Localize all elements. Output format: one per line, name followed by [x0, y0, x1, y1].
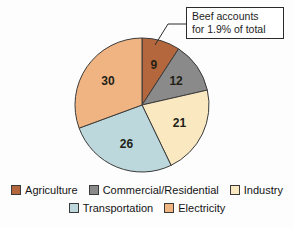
chart-plot-area: 912212630 Beef accounts for 1.9% of tota…: [0, 0, 294, 180]
pie-slice-value-label: 12: [169, 74, 183, 88]
legend-item[interactable]: Electricity: [164, 202, 225, 214]
legend-swatch-icon: [11, 185, 21, 195]
callout-line-1: Beef accounts: [192, 10, 279, 23]
legend-item[interactable]: Industry: [230, 184, 283, 196]
pie-slice-value-label: 21: [173, 116, 187, 130]
legend-row-2: TransportationElectricity: [0, 199, 294, 217]
legend-row-1: AgricultureCommercial/ResidentialIndustr…: [0, 181, 294, 199]
legend-item-label: Electricity: [178, 202, 225, 214]
pie-slice-value-label: 30: [101, 74, 115, 88]
legend-item-label: Commercial/Residential: [103, 184, 219, 196]
legend-item[interactable]: Transportation: [69, 202, 154, 214]
legend-item-label: Transportation: [83, 202, 154, 214]
legend-swatch-icon: [89, 185, 99, 195]
legend-swatch-icon: [69, 203, 79, 213]
legend-item[interactable]: Agriculture: [11, 184, 78, 196]
pie-slice-value-label: 26: [120, 137, 134, 151]
pie-chart-figure: 912212630 Beef accounts for 1.9% of tota…: [0, 0, 294, 228]
legend-item-label: Industry: [244, 184, 283, 196]
legend-swatch-icon: [230, 185, 240, 195]
legend-item-label: Agriculture: [25, 184, 78, 196]
callout-line-2: for 1.9% of total: [192, 23, 279, 36]
legend-swatch-icon: [164, 203, 174, 213]
chart-legend: AgricultureCommercial/ResidentialIndustr…: [0, 181, 294, 217]
beef-callout-box: Beef accounts for 1.9% of total: [186, 7, 284, 39]
legend-item[interactable]: Commercial/Residential: [89, 184, 219, 196]
pie-slice-group: [75, 38, 209, 172]
pie-slice-value-label: 9: [150, 58, 157, 72]
